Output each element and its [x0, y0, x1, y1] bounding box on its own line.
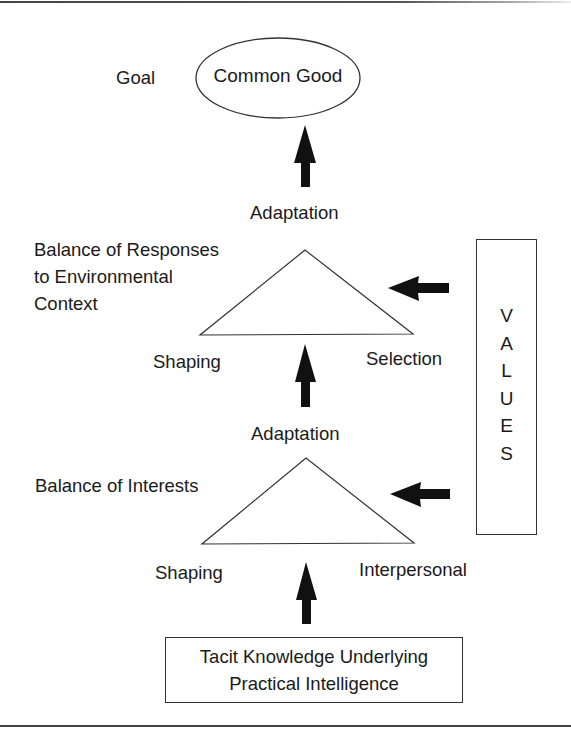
arrow-up-middle-icon	[295, 344, 316, 407]
lower-shaping-label: Shaping	[155, 559, 223, 586]
tacit-knowledge-box: Tacit Knowledge Underlying Practical Int…	[165, 637, 463, 703]
common-good-label: Common Good	[195, 62, 361, 89]
values-letter: V	[477, 302, 536, 330]
arrow-left-lower-icon	[390, 482, 450, 507]
lower-interpersonal-label: Interpersonal	[359, 556, 467, 583]
lower-adaptation-label: Adaptation	[251, 420, 339, 447]
arrow-up-bottom-icon	[296, 562, 317, 624]
upper-description: Balance of Responses to Environmental Co…	[34, 236, 284, 317]
values-letter: E	[477, 412, 536, 440]
lower-description: Balance of Interests	[35, 472, 199, 499]
arrow-left-upper-icon	[388, 276, 449, 301]
values-letter: L	[477, 357, 536, 385]
values-letter: S	[477, 440, 536, 468]
arrow-up-to-goal-icon	[294, 125, 316, 187]
values-box: V A L U E S	[476, 239, 537, 535]
lower-triangle	[202, 458, 414, 544]
tacit-knowledge-line: Tacit Knowledge Underlying	[166, 643, 462, 670]
values-letter: A	[477, 330, 536, 358]
tacit-knowledge-line: Practical Intelligence	[166, 670, 462, 697]
goal-label: Goal	[116, 64, 155, 91]
values-label: V A L U E S	[477, 302, 536, 467]
upper-shaping-label: Shaping	[153, 348, 221, 375]
upper-description-line: Balance of Responses	[34, 236, 284, 263]
bottom-rule	[0, 725, 571, 727]
upper-selection-label: Selection	[366, 345, 442, 372]
upper-adaptation-label: Adaptation	[250, 199, 338, 226]
upper-description-line: to Environmental	[34, 263, 284, 290]
values-letter: U	[477, 385, 536, 413]
upper-description-line: Context	[34, 290, 284, 317]
